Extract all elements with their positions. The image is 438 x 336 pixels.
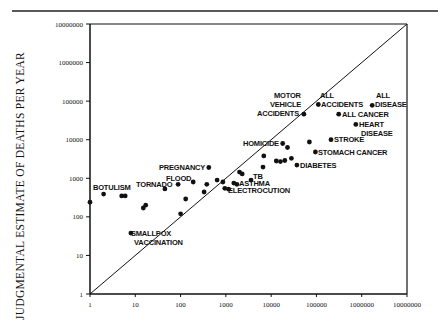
scatter-chart: JUDGMENTAL ESTIMATE OF DEATHS PER YEAR 1… xyxy=(0,0,438,336)
data-point xyxy=(191,180,196,185)
label-all-disease-2: DISEASE xyxy=(375,100,407,109)
data-point xyxy=(329,137,334,142)
data-point xyxy=(178,211,183,216)
data-point xyxy=(261,154,266,159)
label-all-accidents-2: ACCIDENTS xyxy=(321,100,363,109)
label-motor: MOTOR xyxy=(274,91,302,100)
data-point xyxy=(307,140,312,145)
data-point xyxy=(278,159,283,164)
data-point xyxy=(280,141,285,146)
data-point xyxy=(282,158,287,163)
x-tick-label: 1 xyxy=(88,301,92,309)
data-point xyxy=(261,165,266,170)
x-tick-label: 10000000 xyxy=(393,301,422,309)
label-vehicle: VEHICLE xyxy=(270,100,301,109)
data-point xyxy=(302,112,307,117)
data-point xyxy=(336,112,341,117)
label-diabetes: DIABETES xyxy=(300,161,337,170)
label-accidents: ACCIDENTS xyxy=(257,109,299,118)
data-point xyxy=(206,165,211,170)
data-point xyxy=(101,192,106,197)
data-point xyxy=(370,103,375,108)
data-point xyxy=(353,122,358,127)
label-all-disease-1: ALL xyxy=(376,91,391,100)
point-labels: BOTULISM TORNADO FLOOD PREGNANCY SMALLPO… xyxy=(93,91,407,247)
x-tick-label: 100000 xyxy=(306,301,328,309)
label-flood: FLOOD xyxy=(166,174,192,183)
label-pregnancy: PREGNANCY xyxy=(159,163,205,172)
x-tick-label: 10000 xyxy=(262,301,280,309)
y-tick-label: 1000000 xyxy=(59,59,84,67)
label-all-accidents-1: ALL xyxy=(320,91,335,100)
y-tick-label: 100 xyxy=(73,213,84,221)
label-electrocution: ELECTROCUTION xyxy=(228,186,290,195)
label-all-cancer: ALL CANCER xyxy=(342,110,389,119)
label-heart-disease: DISEASE xyxy=(361,129,393,138)
plot-frame xyxy=(90,24,407,294)
y-tick-label: 10 xyxy=(76,252,84,260)
y-tick-label: 1 xyxy=(80,291,84,299)
data-point xyxy=(123,194,128,199)
data-point xyxy=(143,203,148,208)
data-point xyxy=(202,190,207,195)
y-tick-label: 1000 xyxy=(69,175,84,183)
label-homicide: HOMICIDE xyxy=(243,139,279,148)
data-point xyxy=(289,156,294,161)
y-tick-label: 10000 xyxy=(66,136,84,144)
label-botulism: BOTULISM xyxy=(93,183,131,192)
label-heart: HEART xyxy=(359,120,384,129)
label-stroke: STROKE xyxy=(334,135,364,144)
y-axis-label: JUDGMENTAL ESTIMATE OF DEATHS PER YEAR xyxy=(14,52,26,320)
data-point xyxy=(316,102,321,107)
data-point xyxy=(274,159,279,164)
y-tick-label: 10000000 xyxy=(55,21,84,29)
label-stomach-cancer: STOMACH CANCER xyxy=(318,148,388,157)
data-point xyxy=(204,182,209,187)
data-point xyxy=(215,178,220,183)
data-point xyxy=(295,163,300,168)
data-point xyxy=(221,180,226,185)
label-vaccination: VACCINATION xyxy=(134,238,183,247)
data-point xyxy=(240,172,245,177)
axis-ticks: 1101001000100001000001000000100000001101… xyxy=(55,21,422,310)
y-tick-label: 100000 xyxy=(62,98,84,106)
x-tick-label: 1000000 xyxy=(349,301,374,309)
x-tick-label: 100 xyxy=(175,301,186,309)
x-tick-label: 1000 xyxy=(219,301,234,309)
identity-diagonal xyxy=(90,24,407,294)
label-smallpox: SMALLPOX xyxy=(131,229,171,238)
data-point xyxy=(285,145,290,150)
data-point xyxy=(183,197,188,202)
x-tick-label: 10 xyxy=(132,301,140,309)
data-point xyxy=(88,200,93,205)
